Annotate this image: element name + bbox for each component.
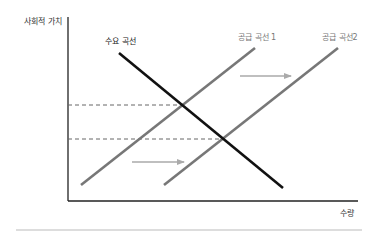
supply-curve-2	[164, 48, 338, 185]
y-axis-label: 사회적 가치	[24, 16, 62, 26]
demand-curve-label: 수요 곡선	[105, 37, 136, 46]
demand-curve	[119, 53, 283, 188]
supply-curve-1-label: 공급 곡선 1	[238, 33, 276, 42]
supply-curve-2-label: 공급 곡선2	[322, 33, 358, 42]
x-axis-label: 수량	[340, 208, 355, 218]
supply-demand-diagram: 사회적 가치 수요 곡선 공급 곡선 1 공급 곡선2 수량	[0, 0, 378, 235]
supply-curve-1	[81, 48, 255, 185]
